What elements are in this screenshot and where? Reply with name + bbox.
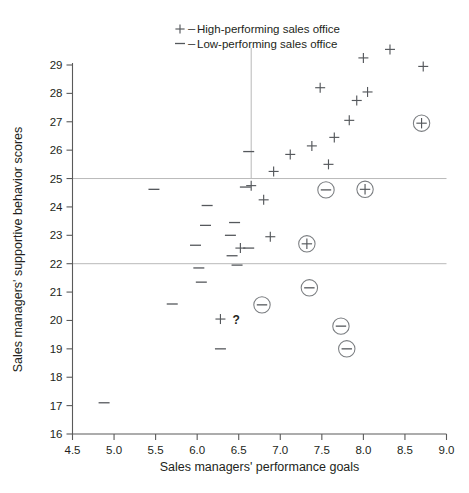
- data-point-plus[interactable]: [315, 83, 325, 93]
- data-point-plus[interactable]: [323, 159, 333, 169]
- y-tick-label: 17: [50, 400, 63, 412]
- data-point-plus[interactable]: [215, 314, 225, 324]
- y-tick-label: 27: [50, 116, 63, 128]
- legend-item: –Low-performing sales office: [175, 36, 337, 51]
- data-point-circled-minus[interactable]: [318, 182, 334, 198]
- data-point-plus[interactable]: [329, 132, 339, 142]
- legend-label: Low-performing sales office: [197, 38, 337, 50]
- x-tick-label: 9.0: [439, 444, 455, 456]
- x-axis-title: Sales managers' performance goals: [160, 460, 360, 474]
- data-point-plus[interactable]: [385, 44, 395, 54]
- series-plus: [215, 44, 428, 324]
- data-point-plus[interactable]: [363, 87, 373, 97]
- data-point-plus[interactable]: [344, 115, 354, 125]
- y-tick-label: 21: [50, 286, 63, 298]
- x-tick-label: 4.5: [65, 444, 81, 456]
- legend-label: High-performing sales office: [197, 23, 340, 35]
- data-point-plus[interactable]: [269, 166, 279, 176]
- data-point-plus[interactable]: [246, 181, 256, 191]
- x-tick-label: 6.5: [231, 444, 247, 456]
- data-point-plus[interactable]: [307, 141, 317, 151]
- y-tick-label: 16: [50, 428, 63, 440]
- y-axis-title: Sales managers' supportive behavior scor…: [11, 127, 25, 373]
- scatter-plot-figure: 16171819202122232425262728294.55.05.56.0…: [0, 0, 469, 493]
- series-circled-minus: [254, 182, 355, 357]
- y-tick-label: 18: [50, 371, 63, 383]
- data-point-circled-minus[interactable]: [333, 318, 349, 334]
- data-point-plus[interactable]: [352, 95, 362, 105]
- annotations-group: ?: [233, 313, 240, 327]
- legend-group: –High-performing sales office–Low-perfor…: [175, 21, 340, 51]
- y-tick-label: 26: [50, 144, 63, 156]
- scatter-plot-svg: 16171819202122232425262728294.55.05.56.0…: [0, 0, 469, 493]
- x-tick-label: 5.0: [106, 444, 122, 456]
- data-point-circled-minus[interactable]: [301, 280, 317, 296]
- data-point-circled-minus[interactable]: [339, 341, 355, 357]
- legend-dash: –: [188, 21, 196, 36]
- legend-item: –High-performing sales office: [175, 21, 340, 36]
- reference-lines-group: [73, 48, 447, 264]
- data-point-circled-plus[interactable]: [357, 181, 373, 197]
- x-tick-label: 8.0: [355, 444, 371, 456]
- data-point-circled-plus[interactable]: [299, 236, 315, 252]
- data-point-circled-minus[interactable]: [254, 297, 270, 313]
- data-point-plus[interactable]: [259, 195, 269, 205]
- series-circled-plus: [299, 115, 430, 252]
- x-tick-label: 7.5: [314, 444, 330, 456]
- data-point-plus[interactable]: [418, 61, 428, 71]
- y-tick-label: 24: [50, 201, 63, 213]
- data-point-plus[interactable]: [358, 53, 368, 63]
- y-tick-label: 22: [50, 258, 63, 270]
- x-tick-label: 8.5: [397, 444, 413, 456]
- x-tick-label: 6.0: [189, 444, 205, 456]
- data-point-plus[interactable]: [285, 149, 295, 159]
- y-tick-label: 19: [50, 343, 63, 355]
- axes-group: [73, 63, 447, 434]
- y-tick-label: 29: [50, 59, 63, 71]
- series-minus: [99, 152, 255, 403]
- y-tick-label: 20: [50, 314, 63, 326]
- data-point-plus[interactable]: [265, 232, 275, 242]
- data-point-circled-plus[interactable]: [413, 115, 429, 131]
- y-tick-label: 25: [50, 173, 63, 185]
- legend-dash: –: [188, 36, 196, 51]
- tick-marks-group: [67, 65, 447, 440]
- x-tick-label: 7.0: [272, 444, 288, 456]
- y-tick-label: 28: [50, 87, 63, 99]
- question-mark-annotation: ?: [233, 313, 240, 327]
- y-tick-label: 23: [50, 229, 63, 241]
- x-tick-label: 5.5: [148, 444, 164, 456]
- data-markers-group: [99, 44, 430, 402]
- tick-labels-group: 16171819202122232425262728294.55.05.56.0…: [50, 59, 455, 456]
